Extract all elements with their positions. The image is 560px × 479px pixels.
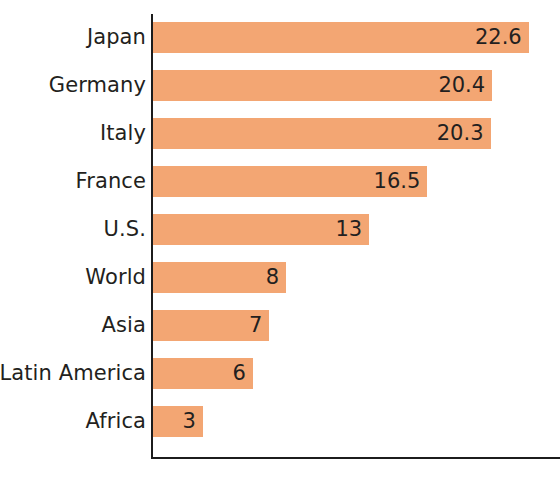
category-label: Italy — [100, 118, 146, 149]
bar-value-label: 8 — [266, 262, 279, 293]
bar-container: 6 — [153, 358, 253, 389]
bar-value-label: 6 — [232, 358, 245, 389]
bar-container: 8 — [153, 262, 286, 293]
bar-chart: Japan22.6Germany20.4Italy20.3France16.5U… — [0, 0, 560, 479]
category-label: Asia — [102, 310, 146, 341]
bar: 20.3 — [153, 118, 491, 149]
category-label: France — [76, 166, 146, 197]
bar-value-label: 7 — [249, 310, 262, 341]
bar-container: 20.3 — [153, 118, 491, 149]
plot-area: Japan22.6Germany20.4Italy20.3France16.5U… — [0, 0, 560, 479]
bar-row: Germany20.4 — [0, 70, 560, 101]
bar-row: France16.5 — [0, 166, 560, 197]
bar: 20.4 — [153, 70, 492, 101]
bar: 6 — [153, 358, 253, 389]
bar-row: U.S.13 — [0, 214, 560, 245]
bar: 13 — [153, 214, 369, 245]
bar-series: Japan22.6Germany20.4Italy20.3France16.5U… — [0, 22, 560, 454]
bar-container: 3 — [153, 406, 203, 437]
bar-row: Japan22.6 — [0, 22, 560, 53]
bar: 8 — [153, 262, 286, 293]
category-label: World — [85, 262, 146, 293]
bar: 7 — [153, 310, 269, 341]
category-label: Germany — [49, 70, 146, 101]
bar-value-label: 20.4 — [438, 70, 485, 101]
bar-row: Asia7 — [0, 310, 560, 341]
category-label: Latin America — [0, 358, 146, 389]
bar-value-label: 16.5 — [374, 166, 421, 197]
category-label: Africa — [86, 406, 147, 437]
bar: 3 — [153, 406, 203, 437]
bar-row: Latin America6 — [0, 358, 560, 389]
bar-container: 20.4 — [153, 70, 492, 101]
bar-value-label: 3 — [183, 406, 196, 437]
bar: 16.5 — [153, 166, 427, 197]
bar-container: 7 — [153, 310, 269, 341]
x-axis-line — [151, 457, 560, 459]
bar-row: World8 — [0, 262, 560, 293]
category-label: U.S. — [104, 214, 146, 245]
bar: 22.6 — [153, 22, 529, 53]
bar-row: Italy20.3 — [0, 118, 560, 149]
bar-container: 16.5 — [153, 166, 427, 197]
bar-row: Africa3 — [0, 406, 560, 437]
bar-value-label: 13 — [335, 214, 362, 245]
category-label: Japan — [87, 22, 146, 53]
bar-container: 13 — [153, 214, 369, 245]
bar-container: 22.6 — [153, 22, 529, 53]
bar-value-label: 22.6 — [475, 22, 522, 53]
bar-value-label: 20.3 — [437, 118, 484, 149]
